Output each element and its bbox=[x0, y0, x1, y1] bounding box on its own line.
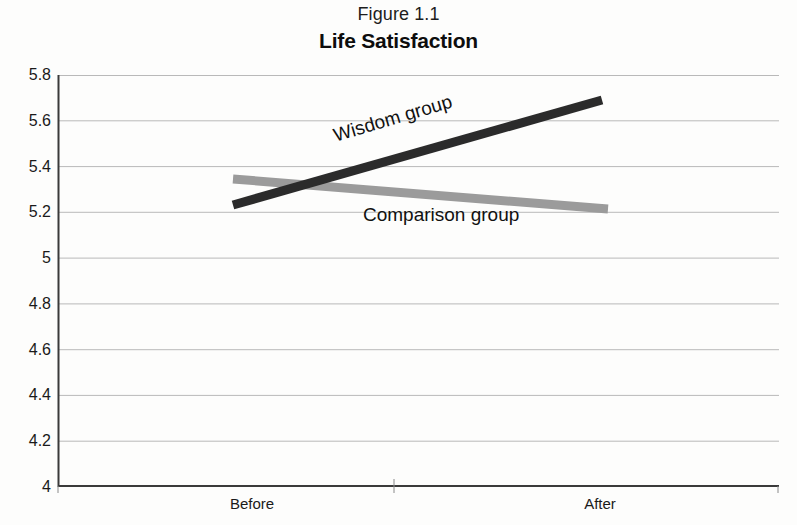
y-tick-label: 5.4 bbox=[5, 159, 51, 175]
x-tick-label-after: After bbox=[584, 496, 616, 511]
y-tick-label: 5.6 bbox=[5, 113, 51, 129]
y-tick-label: 4.8 bbox=[5, 296, 51, 312]
y-tick-label: 4.4 bbox=[5, 387, 51, 403]
axis-lines bbox=[58, 75, 779, 487]
y-tick-label: 4 bbox=[5, 479, 51, 495]
y-tick-label: 5.2 bbox=[5, 204, 51, 220]
chart-canvas bbox=[58, 75, 779, 487]
figure-container: Figure 1.1 Life Satisfaction 5.8 5.6 5.4… bbox=[0, 0, 797, 525]
y-tick-label: 4.6 bbox=[5, 342, 51, 358]
page-title: Life Satisfaction bbox=[0, 29, 797, 53]
y-tick-label: 5 bbox=[5, 250, 51, 266]
x-tick-label-before: Before bbox=[230, 496, 274, 511]
y-tick-label: 5.8 bbox=[5, 67, 51, 83]
plot-area bbox=[58, 75, 779, 487]
figure-number: Figure 1.1 bbox=[0, 4, 797, 25]
y-tick-label: 4.2 bbox=[5, 433, 51, 449]
y-axis-tick-labels: 5.8 5.6 5.4 5.2 5 4.8 4.6 4.4 4.2 4 bbox=[0, 75, 51, 487]
gridlines bbox=[58, 76, 779, 442]
series-label-comparison-group: Comparison group bbox=[363, 205, 519, 224]
